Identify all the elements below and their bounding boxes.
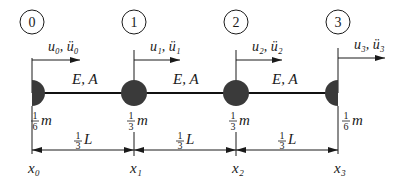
lumped-mass-diagram: 0 1 2 3 u₀, ü₀ u₁, ü₁ u₂, ü₂ u₃, ü₃ E, A…	[0, 0, 394, 185]
svg-text:2: 2	[233, 15, 240, 30]
svg-text:1: 1	[131, 15, 138, 30]
svg-text:L: L	[287, 131, 296, 147]
mass-1	[121, 80, 147, 106]
svg-text:1: 1	[129, 110, 134, 121]
svg-text:3: 3	[231, 121, 236, 132]
svg-text:3: 3	[280, 140, 285, 151]
mass-0	[32, 80, 45, 106]
mass-label-3: 1 6 m	[342, 110, 363, 132]
svg-text:m: m	[352, 112, 363, 128]
span-label-1: 1 3 L	[74, 130, 92, 151]
svg-text:6: 6	[33, 121, 38, 132]
mass-2	[223, 80, 249, 106]
coord-label-0: x₀	[27, 160, 40, 176]
mass-label-1: 1 3 m	[127, 110, 148, 132]
svg-text:m: m	[41, 112, 52, 128]
mass-label-0: 1 6 m	[31, 110, 52, 132]
span-label-2: 1 3 L	[176, 130, 194, 151]
mass-label-2: 1 3 m	[229, 110, 250, 132]
svg-text:L: L	[185, 131, 194, 147]
svg-text:3: 3	[335, 15, 342, 30]
node-label-1: 1	[122, 10, 146, 34]
svg-text:1: 1	[344, 110, 349, 121]
svg-text:1: 1	[33, 110, 38, 121]
coord-label-1: x₁	[129, 160, 142, 176]
node-label-0: 0	[20, 10, 44, 34]
coord-label-2: x₂	[231, 160, 244, 176]
svg-text:6: 6	[344, 121, 349, 132]
mass-3	[325, 80, 338, 106]
node-label-2: 2	[224, 10, 248, 34]
coord-label-3: x₃	[333, 160, 346, 176]
svg-text:3: 3	[178, 140, 183, 151]
svg-text:m: m	[137, 112, 148, 128]
disp-label-0: u₀, ü₀	[48, 39, 79, 54]
disp-label-2: u₂, ü₂	[252, 39, 283, 54]
svg-text:L: L	[83, 131, 92, 147]
svg-text:m: m	[239, 112, 250, 128]
disp-label-3: u₃, ü₃	[354, 37, 385, 52]
element-label-3: E, A	[271, 71, 298, 87]
node-label-3: 3	[326, 10, 350, 34]
svg-text:1: 1	[231, 110, 236, 121]
span-label-3: 1 3 L	[278, 130, 296, 151]
svg-text:3: 3	[129, 121, 134, 132]
svg-text:3: 3	[76, 140, 81, 151]
disp-label-1: u₁, ü₁	[150, 39, 181, 54]
element-label-1: E, A	[71, 71, 98, 87]
element-label-2: E, A	[172, 71, 199, 87]
svg-text:0: 0	[29, 15, 36, 30]
